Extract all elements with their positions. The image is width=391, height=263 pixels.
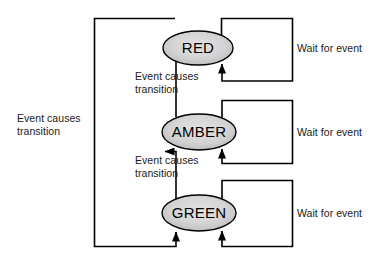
state-node-green[interactable]: GREEN xyxy=(162,195,236,231)
amber-state-label: AMBER xyxy=(172,123,226,140)
label-red-wait-for-event: Wait for event xyxy=(297,42,362,55)
label-amber-to-red-line2: transition xyxy=(135,83,178,95)
state-node-amber[interactable]: AMBER xyxy=(162,114,236,150)
label-red-to-green-line1: Event causes xyxy=(17,112,81,124)
label-red-to-green-transition: Event causestransition xyxy=(17,112,81,137)
label-red-to-green-line2: transition xyxy=(17,125,60,137)
label-green-to-amber-transition: Event causestransition xyxy=(135,154,199,179)
label-amber-to-red-line1: Event causes xyxy=(135,70,199,82)
red-state-label: RED xyxy=(182,39,214,56)
label-green-wait-for-event: Wait for event xyxy=(297,207,362,220)
label-amber-wait-for-event: Wait for event xyxy=(297,126,362,139)
label-amber-to-red-transition: Event causestransition xyxy=(135,70,199,95)
state-node-red[interactable]: RED xyxy=(163,31,233,65)
label-green-to-amber-line2: transition xyxy=(135,167,178,179)
state-diagram: RED AMBER GREEN Event causestransition E… xyxy=(0,0,391,263)
label-green-to-amber-line1: Event causes xyxy=(135,154,199,166)
green-state-label: GREEN xyxy=(172,204,226,221)
